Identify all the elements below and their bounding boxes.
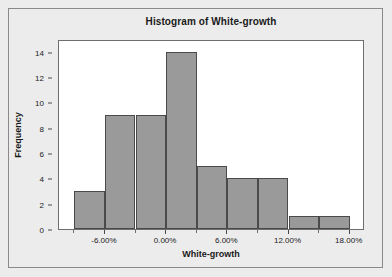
x-tick-mark-minor xyxy=(318,230,319,233)
histogram-bar xyxy=(74,191,105,229)
x-tick-mark-minor xyxy=(135,230,136,233)
x-tick-mark xyxy=(349,230,350,234)
histogram-bar xyxy=(105,115,136,229)
x-tick-mark xyxy=(288,230,289,234)
x-tick-label: 0.00% xyxy=(154,236,177,245)
histogram-bar xyxy=(319,216,350,229)
y-tick-mark xyxy=(48,103,52,104)
y-tick-mark xyxy=(48,204,52,205)
y-tick-mark xyxy=(48,230,52,231)
x-tick-mark xyxy=(165,230,166,234)
x-axis-title: White-growth xyxy=(58,249,364,259)
x-tick-mark-minor xyxy=(196,230,197,233)
y-tick-mark xyxy=(48,179,52,180)
histogram-bar xyxy=(166,52,197,229)
plot-area xyxy=(58,40,364,230)
x-axis-tick-labels: -6.00%0.00%6.00%12.00%18.00% xyxy=(58,236,364,248)
y-tick-label: 2 xyxy=(40,200,44,209)
x-axis-tick-marks xyxy=(58,230,364,235)
y-axis-tick-labels: 02468101214 xyxy=(0,40,52,230)
y-tick-label: 0 xyxy=(40,226,44,235)
y-tick-label: 6 xyxy=(40,150,44,159)
y-tick-label: 10 xyxy=(35,99,44,108)
y-tick-label: 14 xyxy=(35,48,44,57)
x-tick-label: 18.00% xyxy=(335,236,362,245)
histogram-figure: Histogram of White-growth Frequency 0246… xyxy=(0,0,392,277)
x-tick-label: -6.00% xyxy=(91,236,116,245)
y-tick-label: 4 xyxy=(40,175,44,184)
y-tick-mark xyxy=(48,52,52,53)
x-tick-mark xyxy=(226,230,227,234)
x-tick-mark-minor xyxy=(73,230,74,233)
x-tick-mark-minor xyxy=(257,230,258,233)
y-tick-label: 8 xyxy=(40,124,44,133)
histogram-bars xyxy=(59,41,363,229)
y-tick-mark xyxy=(48,154,52,155)
histogram-bar xyxy=(136,115,167,229)
chart-title: Histogram of White-growth xyxy=(58,16,364,27)
x-tick-mark xyxy=(104,230,105,234)
y-tick-mark xyxy=(48,78,52,79)
histogram-bar xyxy=(289,216,320,229)
y-tick-label: 12 xyxy=(35,74,44,83)
histogram-bar xyxy=(227,178,258,229)
histogram-bar xyxy=(197,166,228,229)
x-tick-label: 12.00% xyxy=(274,236,301,245)
histogram-bar xyxy=(258,178,289,229)
x-tick-label: 6.00% xyxy=(215,236,238,245)
y-tick-mark xyxy=(48,128,52,129)
